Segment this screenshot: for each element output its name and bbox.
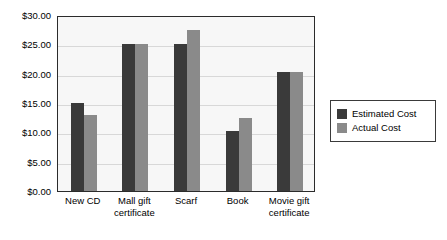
bar-group [277, 17, 303, 191]
x-axis-label-line: certificate [257, 207, 321, 219]
bar-estimated [226, 131, 239, 191]
chart-legend: Estimated CostActual Cost [330, 100, 436, 142]
x-axis-label-line: certificate [103, 207, 167, 219]
y-axis-tick-label: $25.00 [22, 41, 51, 51]
bar-chart: $0.00$5.00$10.00$15.00$20.00$25.00$30.00… [0, 0, 447, 240]
plot-area [57, 16, 315, 192]
x-axis-category-label: Movie giftcertificate [257, 195, 321, 218]
bar-estimated [174, 44, 187, 191]
bar-group [174, 17, 200, 191]
legend-entry: Actual Cost [337, 121, 429, 134]
bar-estimated [122, 44, 135, 191]
y-axis-tick-label: $20.00 [22, 70, 51, 80]
bar-actual [239, 118, 252, 191]
y-axis-tick-label: $5.00 [27, 158, 51, 168]
bar-group [122, 17, 148, 191]
bar-estimated [71, 103, 84, 191]
x-axis-labels: New CDMall giftcertificateScarfBookMovie… [57, 195, 315, 235]
bar-group [226, 17, 252, 191]
legend-entry-label: Estimated Cost [352, 108, 416, 119]
y-axis-labels: $0.00$5.00$10.00$15.00$20.00$25.00$30.00 [0, 16, 53, 192]
bar-estimated [277, 72, 290, 191]
bar-actual [84, 115, 97, 191]
legend-color-swatch [337, 109, 347, 119]
x-axis-label-line: Movie gift [257, 195, 321, 207]
y-axis-tick-label: $30.00 [22, 11, 51, 21]
bars-layer [58, 17, 314, 191]
bar-actual [290, 72, 303, 191]
bar-actual [135, 44, 148, 191]
y-axis-tick-label: $10.00 [22, 129, 51, 139]
y-axis-tick-label: $0.00 [27, 187, 51, 197]
legend-entry-label: Actual Cost [352, 122, 401, 133]
legend-color-swatch [337, 123, 347, 133]
bar-group [71, 17, 97, 191]
y-axis-tick-label: $15.00 [22, 99, 51, 109]
legend-entry: Estimated Cost [337, 107, 429, 120]
bar-actual [187, 30, 200, 191]
